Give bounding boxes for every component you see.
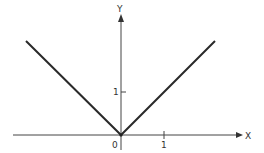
x-axis-arrow-icon (236, 132, 243, 138)
x-tick-1-label: 1 (161, 140, 167, 150)
abs-value-chart: Y X 0 1 1 (0, 0, 264, 153)
origin-label: 0 (112, 140, 118, 150)
origin-dot (119, 133, 122, 136)
y-axis-label: Y (116, 4, 123, 14)
x-axis-label: X (245, 131, 251, 141)
y-tick-1-label: 1 (113, 87, 119, 97)
y-axis-arrow-icon (118, 14, 124, 22)
